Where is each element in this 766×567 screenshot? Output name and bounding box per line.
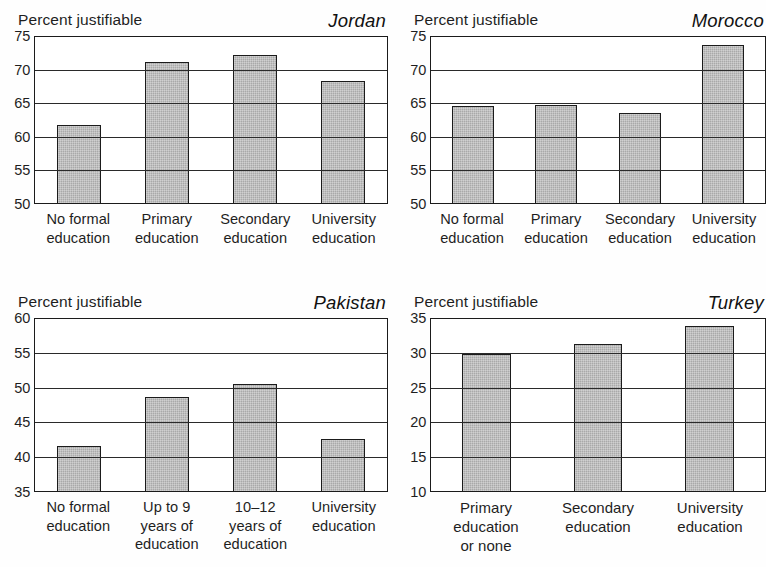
gridline	[431, 457, 765, 458]
y-tick-label: 25	[410, 380, 426, 396]
y-tick-label: 55	[14, 345, 30, 361]
y-tick-label: 70	[410, 62, 426, 78]
gridline	[431, 170, 765, 171]
y-axis-jordan: 505560657075	[0, 36, 34, 204]
panel-turkey: Percent justifiable Turkey 101520253035 …	[396, 292, 766, 567]
bar[interactable]	[57, 446, 101, 491]
bar-slot	[431, 319, 542, 491]
bar-slot	[654, 319, 765, 491]
gridline	[35, 103, 387, 104]
x-axis-category-label: Secondary education	[211, 210, 300, 247]
plot-wrap-pakistan: 354045505560	[0, 318, 392, 492]
bar-slot	[431, 37, 515, 203]
y-tick-label: 50	[410, 196, 426, 212]
bar-slot	[35, 37, 123, 203]
panel-title-country: Jordan	[328, 10, 386, 32]
gridline	[35, 388, 387, 389]
plot-wrap-morocco: 505560657075	[396, 36, 766, 204]
x-axis-category-label: 10–12 years of education	[211, 498, 300, 554]
y-tick-label: 60	[410, 129, 426, 145]
y-tick-label: 35	[14, 484, 30, 500]
bar[interactable]	[321, 81, 365, 203]
x-axis-category-label: Secondary education	[598, 210, 682, 247]
gridline	[431, 70, 765, 71]
bar-slot	[299, 37, 387, 203]
panel-header-jordan: Percent justifiable Jordan	[0, 10, 392, 36]
y-axis-turkey: 101520253035	[396, 318, 430, 492]
panel-morocco: Percent justifiable Morocco 505560657075…	[396, 10, 766, 285]
panel-header-pakistan: Percent justifiable Pakistan	[0, 292, 392, 318]
y-tick-label: 50	[14, 196, 30, 212]
bars-layer-turkey	[431, 319, 765, 491]
y-tick-label: 40	[14, 449, 30, 465]
y-tick-label: 65	[410, 95, 426, 111]
bars-layer-pakistan	[35, 319, 387, 491]
bar-slot	[211, 37, 299, 203]
plot-area-morocco	[430, 36, 766, 204]
y-tick-label: 55	[410, 162, 426, 178]
bar[interactable]	[619, 113, 661, 203]
y-axis-caption: Percent justifiable	[414, 11, 538, 29]
y-tick-label: 75	[14, 28, 30, 44]
y-tick-label: 60	[14, 310, 30, 326]
y-tick-label: 60	[14, 129, 30, 145]
y-axis-caption: Percent justifiable	[18, 11, 142, 29]
bar[interactable]	[145, 62, 189, 203]
bar[interactable]	[233, 384, 277, 491]
gridline	[431, 388, 765, 389]
bar-slot	[35, 319, 123, 491]
y-tick-label: 65	[14, 95, 30, 111]
plot-area-jordan	[34, 36, 388, 204]
x-axis-labels-turkey: Primary education or noneSecondary educa…	[430, 492, 766, 556]
plot-wrap-turkey: 101520253035	[396, 318, 766, 492]
plot-wrap-jordan: 505560657075	[0, 36, 392, 204]
gridline	[35, 137, 387, 138]
panel-pakistan: Percent justifiable Pakistan 35404550556…	[0, 292, 392, 567]
y-axis-pakistan: 354045505560	[0, 318, 34, 492]
bar-slot	[211, 319, 299, 491]
x-axis-category-label: No formal education	[34, 210, 123, 247]
gridline	[35, 170, 387, 171]
x-axis-category-label: University education	[654, 498, 766, 556]
plot-area-pakistan	[34, 318, 388, 492]
x-axis-labels-jordan: No formal educationPrimary educationSeco…	[34, 204, 388, 247]
bar-slot	[299, 319, 387, 491]
y-axis-morocco: 505560657075	[396, 36, 430, 204]
y-tick-label: 50	[14, 380, 30, 396]
y-tick-label: 45	[14, 414, 30, 430]
x-axis-labels-morocco: No formal educationPrimary educationSeco…	[430, 204, 766, 247]
gridline	[431, 353, 765, 354]
y-tick-label: 70	[14, 62, 30, 78]
plot-area-turkey	[430, 318, 766, 492]
gridline	[35, 422, 387, 423]
bar-slot	[682, 37, 766, 203]
bar[interactable]	[574, 344, 623, 491]
bar[interactable]	[685, 326, 734, 491]
figure-multi-panel-bar-charts: Percent justifiable Jordan 505560657075 …	[0, 0, 766, 567]
panel-title-country: Morocco	[692, 10, 764, 32]
y-tick-label: 10	[410, 484, 426, 500]
x-axis-category-label: University education	[682, 210, 766, 247]
bar[interactable]	[145, 397, 189, 491]
bar[interactable]	[535, 105, 577, 203]
panel-header-turkey: Percent justifiable Turkey	[396, 292, 766, 318]
gridline	[431, 103, 765, 104]
panel-title-country: Turkey	[708, 292, 764, 314]
x-axis-category-label: No formal education	[34, 498, 123, 554]
panel-title-country: Pakistan	[313, 292, 386, 314]
gridline	[35, 353, 387, 354]
bars-layer-morocco	[431, 37, 765, 203]
panel-header-morocco: Percent justifiable Morocco	[396, 10, 766, 36]
bar[interactable]	[702, 45, 744, 203]
bar[interactable]	[321, 439, 365, 491]
x-axis-category-label: No formal education	[430, 210, 514, 247]
y-tick-label: 35	[410, 310, 426, 326]
bar[interactable]	[233, 55, 277, 203]
bar-slot	[542, 319, 653, 491]
bar-slot	[123, 37, 211, 203]
gridline	[35, 70, 387, 71]
bar[interactable]	[452, 106, 494, 203]
gridline	[431, 422, 765, 423]
x-axis-category-label: Up to 9 years of education	[123, 498, 212, 554]
x-axis-category-label: Secondary education	[542, 498, 654, 556]
